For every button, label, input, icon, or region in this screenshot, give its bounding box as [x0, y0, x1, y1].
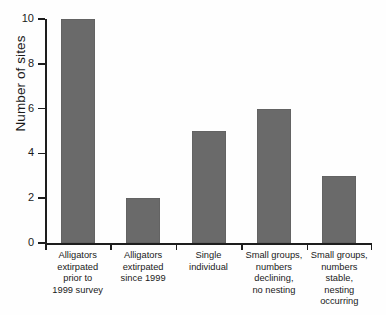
- x-axis-category-label: Alligatorsextirpatedsince 1999: [110, 250, 175, 285]
- y-axis-title: Number of sites: [13, 19, 28, 149]
- x-axis-category-label-line: since 1999: [110, 273, 175, 285]
- x-axis-category-label: Small groups,numbers stable,nestingoccur…: [307, 250, 372, 308]
- y-axis-tick-label: 4: [0, 146, 34, 158]
- x-axis-category-label-line: declining,: [241, 273, 306, 285]
- x-axis-category-label-line: Alligators: [45, 250, 110, 262]
- y-axis-tick-label: 6: [0, 102, 34, 114]
- x-axis-category-labels: Alligatorsextirpatedprior to1999 surveyA…: [45, 250, 372, 310]
- x-axis-category-label-line: 1999 survey: [45, 285, 110, 297]
- y-axis-tick-label: 8: [0, 57, 34, 69]
- y-axis-tick-label: 10: [0, 12, 34, 24]
- bar: [257, 109, 291, 243]
- bar: [126, 198, 160, 243]
- x-axis-category-label-line: Small groups,: [307, 250, 372, 262]
- y-axis-tick: [38, 63, 45, 65]
- x-axis-category-label-line: extirpated: [110, 262, 175, 274]
- y-axis-tick: [38, 197, 45, 199]
- y-axis-tick: [38, 242, 45, 244]
- plot-area: [45, 19, 372, 243]
- y-axis-tick: [38, 18, 45, 20]
- y-axis-tick: [38, 153, 45, 155]
- x-axis-category-label-line: Single: [176, 250, 241, 262]
- x-axis-category-label-line: extirpated: [45, 262, 110, 274]
- x-axis-line: [45, 243, 372, 245]
- y-axis-tick: [38, 108, 45, 110]
- x-axis-category-label-line: Alligators: [110, 250, 175, 262]
- bar: [61, 19, 95, 243]
- y-axis-tick-label: 0: [0, 236, 34, 248]
- x-axis-category-label-line: Small groups,: [241, 250, 306, 262]
- x-axis-category-label-line: no nesting: [241, 285, 306, 297]
- x-axis-category-label: Alligatorsextirpatedprior to1999 survey: [45, 250, 110, 296]
- y-axis-tick-label: 2: [0, 191, 34, 203]
- x-axis-category-label-line: nesting: [307, 285, 372, 297]
- bar-chart-figure: Number of sites 0246810 Alligatorsextirp…: [0, 0, 386, 315]
- x-axis-category-label-line: numbers: [241, 262, 306, 274]
- x-axis-category-label-line: prior to: [45, 273, 110, 285]
- x-axis-category-label-line: individual: [176, 262, 241, 274]
- bar: [322, 176, 356, 243]
- x-axis-category-label: Singleindividual: [176, 250, 241, 273]
- bar: [192, 131, 226, 243]
- x-axis-category-label-line: occurring: [307, 296, 372, 308]
- x-axis-category-label: Small groups,numbersdeclining,no nesting: [241, 250, 306, 296]
- x-axis-category-label-line: numbers stable,: [307, 262, 372, 285]
